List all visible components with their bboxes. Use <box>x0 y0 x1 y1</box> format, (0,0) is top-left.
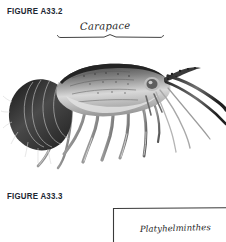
figure-a33-3-label: FIGURE A33.3 <box>7 191 63 201</box>
platyhelminthes-annotation-label: Platyhelminthes <box>140 222 211 234</box>
figure-a33-2-label: FIGURE A33.2 <box>7 6 63 16</box>
worksheet-page: FIGURE A33.2 Carapace <box>0 0 226 242</box>
spiny-lobster-icon <box>0 38 226 170</box>
carapace-annotation-label: Carapace <box>80 20 131 32</box>
spiny-lobster-photograph <box>0 38 226 170</box>
